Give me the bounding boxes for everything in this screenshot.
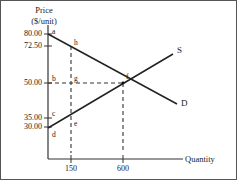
point-label-b: b [52, 75, 56, 83]
demand-curve [48, 34, 177, 104]
x-tick-label-600: 600 [108, 165, 138, 173]
y-tick-label-35: 35.00 [3, 114, 42, 122]
point-label-d: d [52, 131, 56, 139]
equilibrium-point-f [122, 82, 125, 85]
demand-curve-label: D [181, 99, 188, 108]
supply-curve-label: S [177, 46, 182, 55]
y-tick-label-50: 50.00 [3, 79, 42, 87]
point-label-g: g [74, 75, 78, 83]
x-axis-title: Quantity [185, 155, 235, 164]
y-tick-label-80: 80.00 [3, 30, 42, 38]
point-label-c: c [52, 110, 55, 118]
supply-demand-chart: Price ($/unit) Quantity 80.00 72.50 50.0… [1, 1, 236, 179]
chart-frame: Price ($/unit) Quantity 80.00 72.50 50.0… [0, 0, 237, 180]
x-tick-label-150: 150 [56, 165, 86, 173]
y-tick-label-7250: 72.50 [3, 42, 42, 50]
y-tick-label-30: 30.00 [3, 123, 42, 131]
point-label-f: f [126, 73, 129, 81]
y-axis-title-line1: Price [14, 6, 74, 15]
point-label-e: e [74, 120, 77, 128]
point-label-h: h [74, 39, 78, 47]
y-axis-title-line2: ($/unit) [14, 17, 74, 26]
point-label-a: a [52, 28, 55, 36]
